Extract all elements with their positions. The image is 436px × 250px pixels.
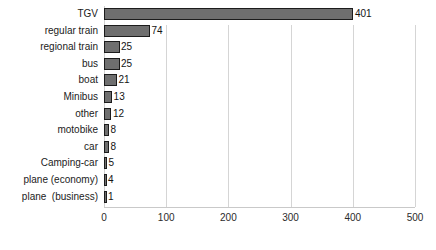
category-label: motobike [0,122,98,138]
bar [104,157,107,169]
bar [104,191,107,203]
bar [104,8,353,20]
category-label: other [0,106,98,122]
x-tick-300: 300 [271,212,311,223]
category-label: Camping-car [0,155,98,171]
plot-area: TGV401regular train74regional train25bus… [0,0,436,250]
bar [104,58,120,70]
bar-row: Camping-car5 [0,155,436,171]
x-axis-line [104,207,415,208]
bar-value-label: 13 [114,89,125,105]
x-tick-500: 500 [395,212,435,223]
bar-row: boat21 [0,72,436,88]
bar-value-label: 25 [121,56,132,72]
bar-value-label: 401 [355,6,372,22]
bar-value-label: 8 [110,139,116,155]
bar-value-label: 8 [110,122,116,138]
bar-row: bus25 [0,56,436,72]
bar [104,41,120,53]
bar-chart: TGV401regular train74regional train25bus… [0,0,436,250]
x-tick-100: 100 [146,212,186,223]
bar-row: regional train25 [0,39,436,55]
bar-row: plane (business)1 [0,189,436,205]
bar-row: motobike8 [0,122,436,138]
category-label: regular train [0,23,98,39]
bar-value-label: 25 [121,39,132,55]
bar-row: regular train74 [0,23,436,39]
category-label: Minibus [0,89,98,105]
bar-row: other12 [0,106,436,122]
bar [104,74,117,86]
bar-row: Minibus13 [0,89,436,105]
bar [104,174,107,186]
bar-value-label: 5 [109,155,115,171]
bar [104,141,109,153]
x-tick-400: 400 [333,212,373,223]
category-label: TGV [0,6,98,22]
bar-row: plane (economy)4 [0,172,436,188]
category-label: plane (economy) [0,172,98,188]
x-tick-200: 200 [208,212,248,223]
bar-row: TGV401 [0,6,436,22]
x-tick-0: 0 [84,212,124,223]
category-label: regional train [0,39,98,55]
bar [104,25,150,37]
bar-value-label: 21 [119,72,130,88]
category-label: boat [0,72,98,88]
bar [104,91,112,103]
bar-value-label: 4 [108,172,114,188]
bar-value-label: 1 [108,189,114,205]
category-label: car [0,139,98,155]
bar-row: car8 [0,139,436,155]
bar-value-label: 74 [152,23,163,39]
bar [104,124,109,136]
bar-value-label: 12 [113,106,124,122]
category-label: plane (business) [0,189,98,205]
category-label: bus [0,56,98,72]
bar [104,108,111,120]
